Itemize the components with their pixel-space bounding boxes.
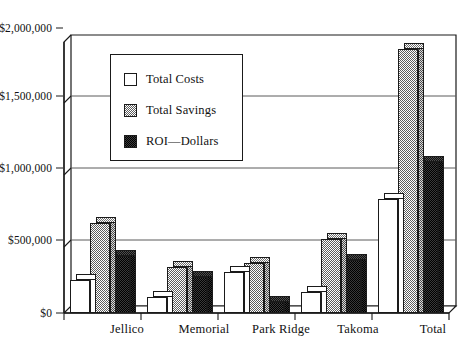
y-tick-mark: [56, 28, 63, 29]
bar-side-face: [130, 250, 136, 313]
legend-swatch-total-savings-icon: [124, 104, 137, 117]
legend-item-total-costs: Total Costs: [124, 64, 242, 95]
legend-label-total-savings: Total Savings: [146, 103, 216, 118]
bar-front-face: [378, 199, 398, 313]
chart-legend: Total Costs Total Savings ROI—Dollars: [110, 54, 243, 161]
legend-swatch-roi-dollars-icon: [124, 135, 137, 148]
bar-side-face: [110, 217, 116, 313]
y-tick-mark: [56, 168, 63, 169]
bar-front-face: [147, 297, 167, 313]
x-tick-label-total: Total: [420, 322, 447, 337]
legend-item-total-savings: Total Savings: [124, 95, 242, 126]
x-tick-label-jellico: Jellico: [110, 322, 144, 337]
bar-total-costs-jellico: [70, 280, 90, 313]
legend-item-roi-dollars: ROI—Dollars: [124, 126, 242, 157]
y-tick-label: $500,000: [8, 234, 52, 246]
y-tick-mark: [56, 96, 63, 97]
bar-side-face: [264, 257, 270, 313]
bar-total-costs-total: [378, 199, 398, 313]
legend-swatch-total-costs-icon: [124, 73, 137, 86]
y-tick-label: $1,000,000: [0, 162, 52, 174]
bar-total-costs-memorial: [147, 297, 167, 313]
y-tick-mark: [56, 240, 63, 241]
y-tick-label: $0: [40, 307, 52, 319]
bar-front-face: [70, 280, 90, 313]
bar-side-face: [361, 254, 367, 313]
bar-side-face: [418, 43, 424, 313]
bar-side-face: [187, 261, 193, 313]
y-tick-mark: [56, 313, 63, 314]
legend-label-total-costs: Total Costs: [146, 72, 204, 87]
bar-front-face: [224, 272, 244, 313]
bar-side-face: [244, 266, 250, 313]
bar-total-costs-takoma: [301, 292, 321, 313]
x-tick-label-takoma: Takoma: [337, 322, 378, 337]
bar-chart: $2,000,000 $1,500,000 $1,000,000 $500,00…: [0, 0, 463, 349]
y-tick-label: $2,000,000: [0, 22, 52, 34]
bar-total-costs-park-ridge: [224, 272, 244, 313]
bar-side-face: [398, 193, 404, 313]
legend-label-roi-dollars: ROI—Dollars: [146, 134, 218, 149]
bar-side-face: [207, 271, 213, 313]
x-tick-label-park-ridge: Park Ridge: [252, 322, 310, 337]
x-axis-ticks: [64, 313, 372, 320]
bar-front-face: [301, 292, 321, 313]
bar-side-face: [438, 156, 444, 313]
x-tick-label-memorial: Memorial: [179, 322, 230, 337]
y-tick-label: $1,500,000: [0, 90, 52, 102]
bar-side-face: [341, 233, 347, 313]
y-axis: $2,000,000 $1,500,000 $1,000,000 $500,00…: [0, 0, 63, 349]
